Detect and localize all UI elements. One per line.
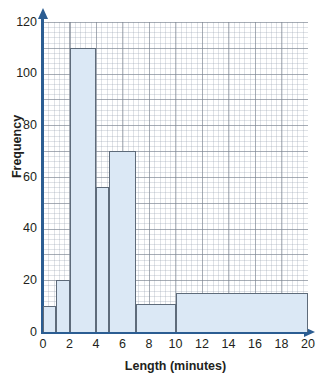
chart-title-remnant: [148, 0, 174, 6]
x-tick-label: 4: [84, 338, 108, 351]
x-axis-title: Length (minutes): [43, 360, 308, 373]
histogram-bar: [136, 304, 176, 332]
histogram-bar: [56, 280, 69, 332]
y-tick-label: 100: [3, 67, 37, 80]
y-axis-title: Frequency: [11, 92, 24, 202]
histogram-bar: [43, 306, 56, 332]
histogram-figure: 020406080100120 02468101214161820 Length…: [0, 0, 317, 382]
histogram-bar: [96, 187, 109, 332]
x-tick-label: 14: [217, 338, 241, 351]
histogram-bar: [176, 293, 309, 332]
y-tick-label: 40: [3, 222, 37, 235]
y-tick-label: 120: [3, 16, 37, 29]
x-tick-label: 8: [137, 338, 161, 351]
y-axis-line: [41, 18, 44, 334]
y-axis-arrow-icon: [38, 8, 48, 19]
x-tick-label: 18: [270, 338, 294, 351]
x-tick-label: 6: [111, 338, 135, 351]
histogram-bar: [70, 48, 97, 332]
x-tick-label: 10: [164, 338, 188, 351]
x-tick-label: 20: [296, 338, 317, 351]
x-tick-label: 0: [31, 338, 55, 351]
y-tick-label: 20: [3, 274, 37, 287]
x-tick-label: 16: [243, 338, 267, 351]
y-tick-label: 0: [3, 326, 37, 339]
x-tick-label: 2: [58, 338, 82, 351]
histogram-bar: [109, 151, 136, 332]
x-tick-label: 12: [190, 338, 214, 351]
